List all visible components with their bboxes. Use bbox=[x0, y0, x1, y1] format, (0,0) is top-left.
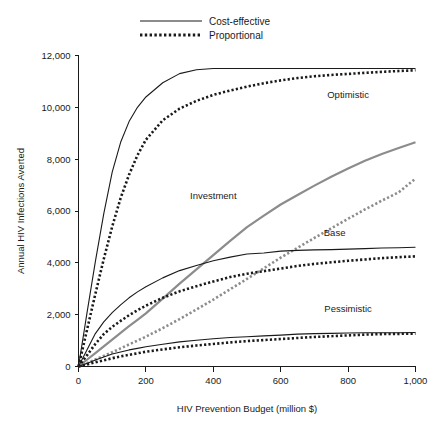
chart-series-lines bbox=[79, 68, 416, 366]
series-line-optimistic-proportional bbox=[79, 70, 416, 366]
x-tick-label: 600 bbox=[273, 375, 289, 386]
annotation-base: Base bbox=[324, 227, 346, 238]
annotation-investment: Investment bbox=[190, 190, 237, 201]
annotation-pessimistic: Pessimistic bbox=[324, 303, 372, 314]
x-tick-label: 0 bbox=[76, 375, 81, 386]
chart-legend: Cost-effectiveProportional bbox=[140, 16, 270, 41]
chart-axes: 02,0004,0006,0008,00010,00012,0000200400… bbox=[41, 50, 427, 386]
y-tick-label: 10,000 bbox=[41, 102, 70, 113]
y-tick-label: 2,000 bbox=[47, 309, 71, 320]
x-axis-title: HIV Prevention Budget (million $) bbox=[177, 403, 317, 414]
y-tick-label: 4,000 bbox=[47, 257, 71, 268]
chart-figure: Cost-effectiveProportional 02,0004,0006,… bbox=[0, 0, 444, 437]
y-tick-label: 0 bbox=[65, 361, 70, 372]
y-axis-title: Annual HIV Infections Averted bbox=[15, 148, 26, 274]
annotation-optimistic: Optimistic bbox=[327, 89, 369, 100]
x-tick-label: 400 bbox=[205, 375, 221, 386]
x-tick-label: 200 bbox=[138, 375, 154, 386]
y-tick-label: 12,000 bbox=[41, 50, 70, 61]
series-line-pessimistic-cost-effective bbox=[79, 333, 416, 367]
x-tick-label: 800 bbox=[340, 375, 356, 386]
y-tick-label: 8,000 bbox=[47, 154, 71, 165]
line-chart-canvas: Cost-effectiveProportional 02,0004,0006,… bbox=[0, 0, 444, 437]
legend-label-cost-effective: Cost-effective bbox=[209, 16, 270, 27]
y-tick-label: 6,000 bbox=[47, 205, 71, 216]
x-tick-label: 1,000 bbox=[404, 375, 428, 386]
series-line-optimistic-cost-effective bbox=[79, 68, 416, 366]
legend-label-proportional: Proportional bbox=[209, 30, 263, 41]
